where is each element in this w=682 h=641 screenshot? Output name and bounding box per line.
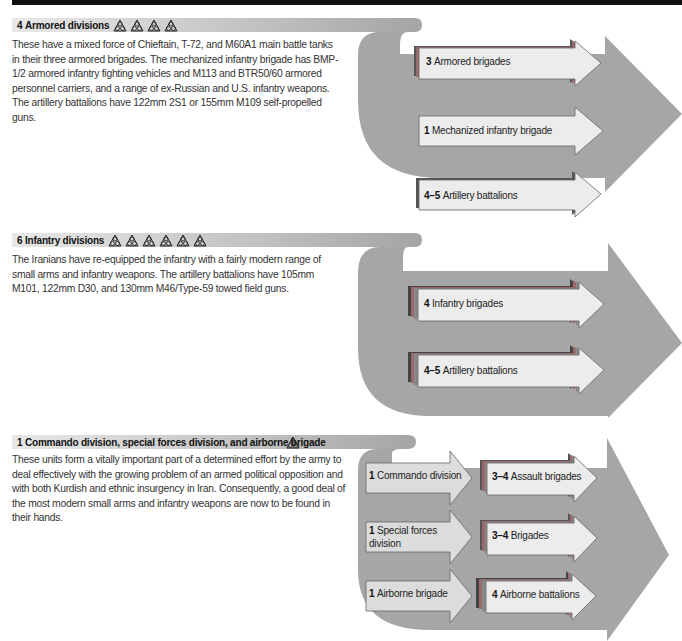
parent-unit-label: 1 Commando division	[369, 470, 461, 482]
section-infantry-divisions: 6 Infantry divisions The Iranians have r…	[0, 228, 682, 418]
division-triangle-icon	[125, 234, 139, 247]
section-description: These units form a vitally important par…	[12, 453, 347, 526]
child-unit-label: 3–4 Assault brigades	[492, 471, 581, 483]
division-icons	[108, 234, 207, 249]
section-heading: 6 Infantry divisions	[17, 235, 104, 246]
division-triangle-icon	[159, 234, 173, 247]
section-description: The Iranians have re-equipped the infant…	[12, 253, 342, 297]
unit-label: 4–5 Artillery battalions	[424, 190, 518, 202]
unit-label: 1 Mechanized infantry brigade	[424, 125, 552, 137]
section-heading: 1 Commando division, special forces divi…	[17, 437, 326, 448]
section-description: These have a mixed force of Chieftain, T…	[12, 38, 342, 125]
unit-label: 4 Infantry brigades	[424, 298, 503, 310]
child-unit-label: 4 Airborne battalions	[492, 589, 580, 601]
division-triangle-icon	[286, 436, 300, 449]
division-triangle-icon	[193, 234, 207, 247]
division-icons	[113, 19, 178, 34]
unit-label: 3 Armored brigades	[426, 56, 510, 68]
parent-unit-label: 1 Airborne brigade	[369, 588, 448, 600]
division-triangle-icon	[130, 19, 144, 32]
division-triangle-icon	[176, 234, 190, 247]
division-icons	[286, 436, 300, 451]
division-triangle-icon	[164, 19, 178, 32]
division-triangle-icon	[142, 234, 156, 247]
section-armored-divisions: 4 Armored divisions These have a mixed f…	[0, 0, 682, 215]
child-unit-label: 3–4 Brigades	[492, 530, 549, 542]
unit-label: 4–5 Artillery battalions	[424, 365, 518, 377]
parent-unit-label: 1 Special forcesdivision	[369, 524, 437, 550]
division-triangle-icon	[108, 234, 122, 247]
section-heading: 4 Armored divisions	[17, 20, 109, 31]
section-special-units: 1 Commando division, special forces divi…	[0, 430, 682, 641]
division-triangle-icon	[147, 19, 161, 32]
division-triangle-icon	[113, 19, 127, 32]
